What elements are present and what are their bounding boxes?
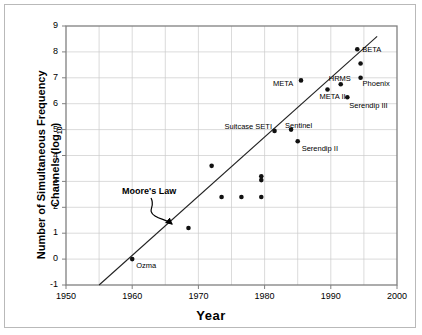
data-point	[130, 257, 135, 262]
data-point	[355, 47, 360, 52]
y-axis-tick-label: 4	[38, 150, 58, 160]
moores-law-annotation: Moore's Law	[122, 186, 176, 196]
y-axis-title: Number of Simultaneous Frequency Channel…	[35, 15, 65, 315]
data-point	[209, 164, 214, 169]
y-axis-tick-label: 1	[38, 227, 58, 237]
y-axis-tick-label: 2	[38, 201, 58, 211]
data-point	[345, 95, 350, 100]
data-point	[259, 174, 264, 179]
data-point	[295, 139, 300, 144]
data-point	[272, 129, 277, 134]
data-point	[239, 195, 244, 200]
chart-figure: Number of Simultaneous Frequency Channel…	[0, 0, 422, 335]
data-point-label: Ozma	[136, 261, 156, 270]
data-point-label: BETA	[362, 45, 381, 54]
x-axis-tick-label: 1990	[311, 291, 351, 301]
y-axis-title-line2: Channels (log	[49, 134, 61, 207]
y-axis-tick-label: 3	[38, 175, 58, 185]
y-axis-tick-label: 0	[38, 253, 58, 263]
data-point-label: Sentinel	[285, 121, 312, 130]
y-axis-tick-label: 9	[38, 20, 58, 30]
data-point	[299, 78, 304, 83]
y-axis-tick-label: 8	[38, 46, 58, 56]
x-axis-tick-label: 1980	[245, 291, 285, 301]
x-axis-title: Year	[0, 308, 422, 323]
y-axis-tick-label: 5	[38, 124, 58, 134]
y-axis-tick-label: 7	[38, 72, 58, 82]
data-point	[259, 195, 264, 200]
data-point-label: Phoenix	[363, 79, 390, 88]
y-axis-tick-label: -1	[38, 279, 58, 289]
x-axis-tick-label: 1970	[178, 291, 218, 301]
data-point-label: META	[273, 79, 293, 88]
data-point	[358, 61, 363, 66]
data-point-label: META II	[319, 92, 345, 101]
x-axis-tick-label: 1950	[46, 291, 86, 301]
data-point	[186, 226, 191, 231]
data-point	[219, 195, 224, 200]
x-axis-tick-label: 2000	[377, 291, 417, 301]
data-point-label: HRMS	[329, 74, 351, 83]
data-point	[325, 87, 330, 92]
data-point-label: Suitcase SETI	[225, 122, 273, 131]
y-axis-tick-label: 6	[38, 98, 58, 108]
data-point-label: Serendip II	[302, 144, 338, 153]
data-point-label: Serendip III	[349, 101, 387, 110]
x-axis-tick-label: 1960	[112, 291, 152, 301]
